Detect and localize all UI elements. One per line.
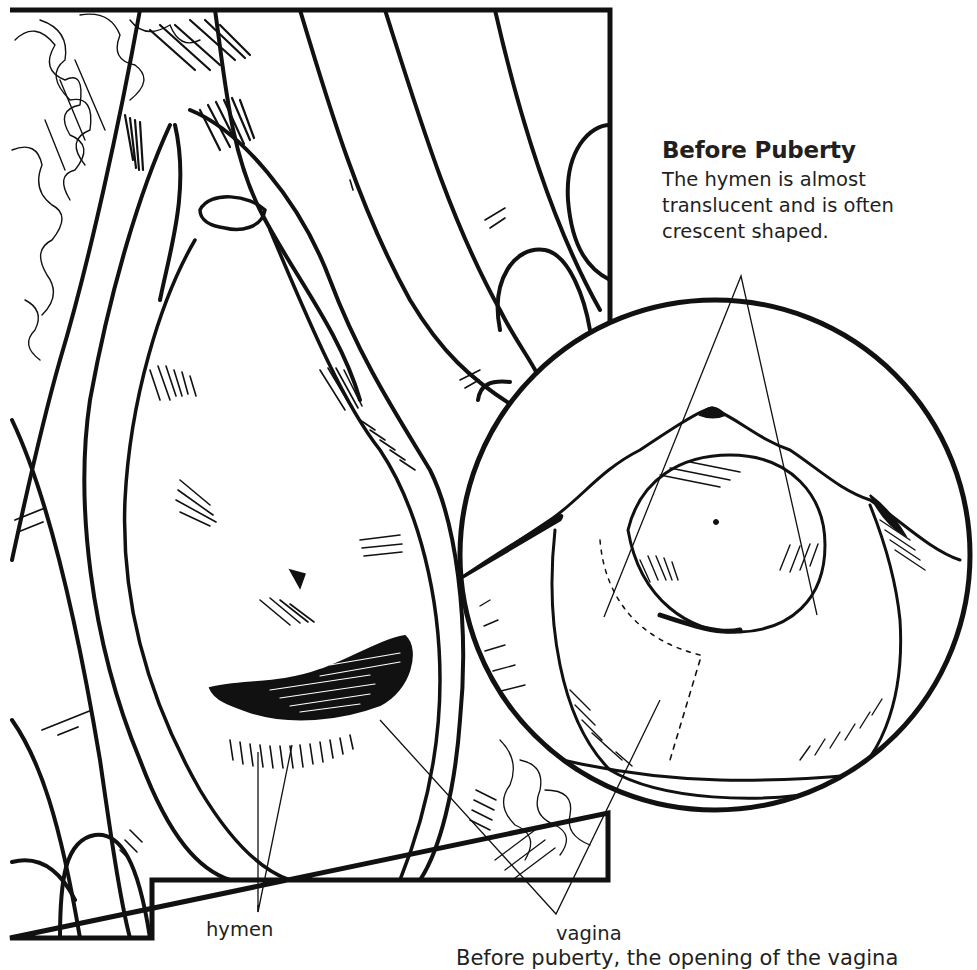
labia-outline xyxy=(84,10,520,880)
inset-description: The hymen is almost translucent and is o… xyxy=(662,167,972,245)
label-hymen: hymen xyxy=(206,918,273,941)
footer-caption: Before puberty, the opening of the vagin… xyxy=(456,946,898,970)
clitoral-mark xyxy=(290,570,305,588)
vaginal-opening xyxy=(210,636,412,719)
inset-circle xyxy=(458,300,970,810)
inner-labia xyxy=(125,197,440,880)
label-vagina: vagina xyxy=(556,922,622,945)
callout-hymen xyxy=(258,745,292,912)
inset-heading: Before Puberty xyxy=(662,137,856,163)
